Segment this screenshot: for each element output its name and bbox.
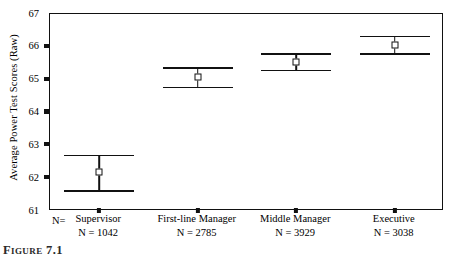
x-axis-category-name: Supervisor bbox=[76, 212, 122, 226]
x-axis-category-sample-size: N = 1042 bbox=[76, 226, 122, 240]
y-axis-title: Average Power Test Scores (Raw) bbox=[0, 0, 26, 215]
y-axis-tick-label: 63 bbox=[29, 137, 40, 152]
x-axis-category-label: SupervisorN = 1042 bbox=[76, 212, 122, 240]
y-axis-tick-label: 67 bbox=[29, 6, 40, 21]
y-axis-tick-mark bbox=[44, 109, 49, 113]
x-axis-category-sample-size: N = 3038 bbox=[373, 226, 415, 240]
x-axis-category-label: First-line ManagerN = 2785 bbox=[158, 212, 236, 240]
x-axis-category-name: First-line Manager bbox=[158, 212, 236, 226]
y-axis-tick-label: 62 bbox=[29, 170, 40, 185]
y-axis-tick-mark bbox=[44, 175, 49, 179]
plot-area bbox=[49, 13, 443, 210]
n-row-label: N= bbox=[52, 214, 66, 228]
y-axis-tick-mark bbox=[44, 142, 49, 146]
x-axis-category-sample-size: N = 2785 bbox=[158, 226, 236, 240]
y-axis-title-text: Average Power Test Scores (Raw) bbox=[8, 34, 19, 181]
x-axis-category-label: ExecutiveN = 3038 bbox=[373, 212, 415, 240]
x-axis-category-sample-size: N = 3929 bbox=[260, 226, 330, 240]
x-axis-labels: N= SupervisorN = 1042First-line ManagerN… bbox=[0, 210, 459, 244]
x-axis-category-label: Middle ManagerN = 3929 bbox=[260, 212, 330, 240]
y-axis-tick-label: 66 bbox=[29, 38, 40, 53]
x-axis-tick-marks bbox=[50, 14, 459, 211]
y-axis-tick-mark bbox=[44, 44, 49, 48]
x-axis-category-name: Executive bbox=[373, 212, 415, 226]
y-axis-tick-label: 64 bbox=[29, 104, 40, 119]
y-axis-tick-label: 65 bbox=[29, 71, 40, 86]
y-axis-tick-mark bbox=[44, 77, 49, 81]
figure-caption: Figure 7.1 bbox=[3, 243, 63, 258]
x-axis-category-name: Middle Manager bbox=[260, 212, 330, 226]
